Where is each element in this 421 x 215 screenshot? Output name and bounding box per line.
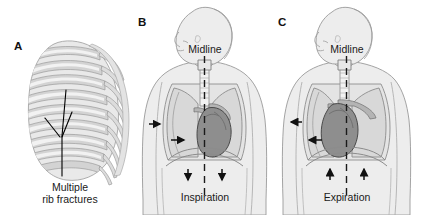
trachea [338,60,351,104]
caption-line-2: rib fractures [42,193,97,205]
panel-b-caption: Inspiration [150,191,260,204]
panel-c: C [272,0,421,215]
lung-left [167,88,198,157]
medical-figure: A [0,0,421,215]
panel-a-caption: Multiple rib fractures [12,181,128,205]
torso-illustration-inspiration [132,0,277,215]
panel-b: B [132,0,277,215]
midline-label-c: Midline [305,43,389,56]
panel-a: A [0,0,140,215]
larynx [338,60,351,70]
torso-illustration-expiration [272,0,421,215]
midline-label-b: Midline [163,43,247,56]
heart [197,107,231,157]
caption-line-1: Multiple [52,181,88,193]
panel-c-caption: Expiration [292,191,402,204]
